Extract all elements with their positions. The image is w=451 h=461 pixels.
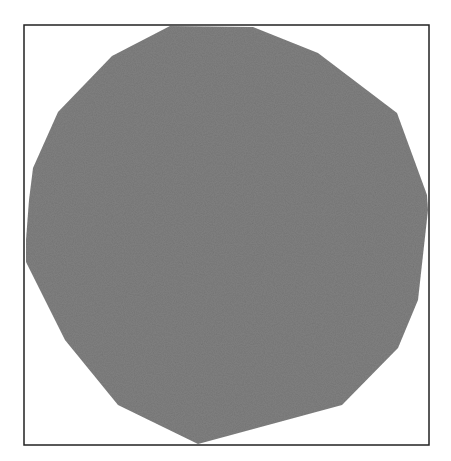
figure-canvas (0, 0, 451, 461)
gray-polygon-shape (26, 26, 428, 444)
